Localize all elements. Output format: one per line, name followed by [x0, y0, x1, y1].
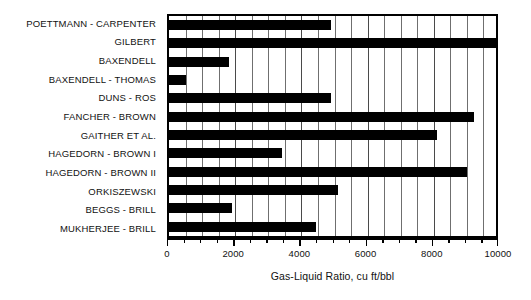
x-axis-minor-tick [481, 240, 482, 243]
x-axis-tick-label: 4000 [289, 248, 311, 259]
x-axis-minor-tick [333, 240, 334, 243]
bar [169, 130, 437, 140]
x-axis-tick-label: 10000 [485, 248, 512, 259]
bar-row [169, 163, 496, 181]
bar-row [169, 89, 496, 107]
bar-row [169, 108, 496, 126]
x-axis-major-tick [167, 240, 168, 246]
x-axis-minor-tick [448, 240, 449, 243]
x-axis-minor-tick [217, 240, 218, 243]
x-axis-minor-tick [200, 240, 201, 243]
x-axis-minor-tick [283, 240, 284, 243]
x-axis-minor-tick [465, 240, 466, 243]
x-axis: 0200040006000800010000 [167, 238, 498, 239]
bar-series [169, 16, 496, 236]
bar [169, 222, 316, 232]
bar-row [169, 181, 496, 199]
bar-row [169, 53, 496, 71]
bar [169, 148, 282, 158]
category-label: GILBERT [0, 33, 162, 52]
category-label: BEGGS - BRILL [0, 201, 162, 220]
category-label: DUNS - ROS [0, 89, 162, 108]
x-axis-major-tick [299, 240, 300, 246]
x-axis-minor-tick [415, 240, 416, 243]
bar [169, 20, 331, 30]
bar-row [169, 34, 496, 52]
bar [169, 112, 474, 122]
bar-row [169, 144, 496, 162]
x-axis-tick-label: 8000 [421, 248, 443, 259]
bar-row [169, 199, 496, 217]
x-axis-minor-tick [250, 240, 251, 243]
category-axis-labels: POETTMANN - CARPENTERGILBERTBAXENDELLBAX… [0, 14, 162, 238]
x-axis-minor-tick [184, 240, 185, 243]
x-axis-major-tick [497, 240, 498, 246]
x-axis-tick-label: 6000 [355, 248, 377, 259]
x-axis-minor-tick [399, 240, 400, 243]
bar [169, 38, 496, 48]
bar [169, 167, 467, 177]
category-label: ORKISZEWSKI [0, 182, 162, 201]
x-axis-tick-label: 0 [164, 248, 169, 259]
plot-area [167, 14, 498, 238]
x-axis-minor-tick [349, 240, 350, 243]
category-label: HAGEDORN - BROWN II [0, 163, 162, 182]
x-axis-major-tick [432, 240, 433, 246]
x-axis-major-tick [366, 240, 367, 246]
bar [169, 93, 331, 103]
bar [169, 75, 186, 85]
x-axis-title: Gas-Liquid Ratio, cu ft/bbl [167, 270, 498, 282]
bar-row [169, 16, 496, 34]
category-label: FANCHER - BROWN [0, 107, 162, 126]
category-label: MUKHERJEE - BRILL [0, 219, 162, 238]
x-axis-tick-label: 2000 [222, 248, 244, 259]
bar [169, 203, 232, 213]
bar-row [169, 126, 496, 144]
bar [169, 57, 229, 67]
x-axis-minor-tick [316, 240, 317, 243]
x-axis-minor-tick [382, 240, 383, 243]
bar-chart-figure: POETTMANN - CARPENTERGILBERTBAXENDELLBAX… [0, 0, 531, 300]
category-label: BAXENDELL [0, 51, 162, 70]
category-label: HAGEDORN - BROWN I [0, 145, 162, 164]
category-label: POETTMANN - CARPENTER [0, 14, 162, 33]
x-axis-minor-tick [266, 240, 267, 243]
category-label: BAXENDELL - THOMAS [0, 70, 162, 89]
bar-row [169, 218, 496, 236]
bar-row [169, 71, 496, 89]
x-axis-major-tick [233, 240, 234, 246]
bar [169, 185, 338, 195]
category-label: GAITHER ET AL. [0, 126, 162, 145]
